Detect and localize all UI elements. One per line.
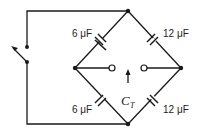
label-ct-sub: T <box>130 101 135 110</box>
circuit-diagram: 6 μF 12 μF 6 μF 12 μF C T <box>0 0 200 130</box>
node-left <box>73 66 77 70</box>
label-cap-bottom-left: 6 μF <box>72 104 92 115</box>
label-cap-top-right: 12 μF <box>163 28 189 39</box>
label-cap-bottom-right: 12 μF <box>163 104 189 115</box>
label-cap-top-left: 6 μF <box>72 28 92 39</box>
terminal-right <box>141 65 147 71</box>
terminal-left <box>109 65 115 71</box>
switch-contact-top <box>25 45 29 49</box>
node-bottom <box>126 122 130 126</box>
switch-contact-bottom <box>25 60 29 64</box>
ct-arrow-head-icon <box>126 69 131 75</box>
switch-arrow-icon <box>11 46 18 51</box>
node-top <box>126 9 130 13</box>
label-ct: C <box>121 93 130 108</box>
node-right <box>179 66 183 70</box>
wire-bottom-right <box>128 68 181 124</box>
